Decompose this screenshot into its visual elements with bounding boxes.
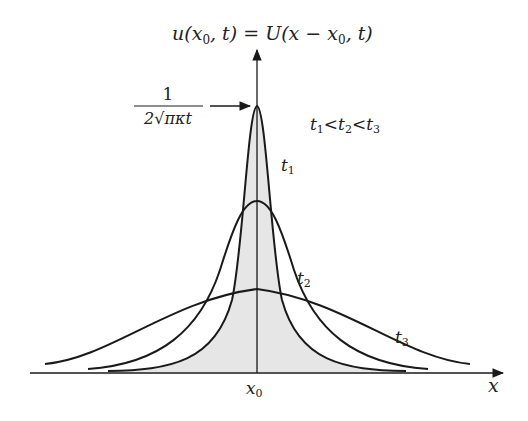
- time-ordering: t1<t2<t3: [310, 114, 380, 136]
- x0-label: x0: [246, 378, 263, 400]
- label-t3: t3: [395, 327, 409, 349]
- peak-label-denominator: 2√πκt: [143, 109, 192, 128]
- peak-label-numerator: 1: [163, 84, 174, 104]
- heat-kernel-diagram: u(x0, t) = U(x − x0, t) 1 2√πκt t1<t2<t3…: [0, 0, 528, 421]
- label-t1: t1: [281, 155, 295, 177]
- x-axis-label: x: [488, 374, 499, 396]
- title-formula: u(x0, t) = U(x − x0, t): [172, 22, 373, 47]
- label-t2: t2: [297, 268, 311, 290]
